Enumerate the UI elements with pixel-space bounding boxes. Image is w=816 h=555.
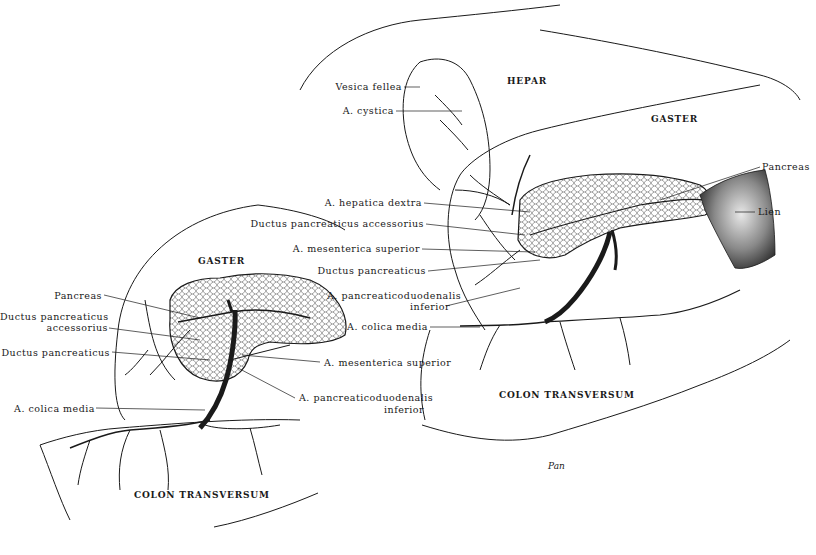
label-lien: Lien xyxy=(758,206,781,217)
label-left-colon-transversum: COLON TRANSVERSUM xyxy=(134,490,270,500)
label-left-pancreaticoduodenalis-2: inferior xyxy=(384,404,424,415)
label-left-ductus-accessorius-1: Ductus pancreaticus xyxy=(0,311,108,322)
artist-signature: Pan xyxy=(548,461,565,471)
label-right-gaster: GASTER xyxy=(651,114,698,124)
label-left-mesenterica-superior: A. mesenterica superior xyxy=(324,357,451,368)
label-right-mesenterica-superior: A. mesenterica superior xyxy=(280,243,420,254)
label-left-ductus-accessorius-2: accessorius xyxy=(0,322,108,333)
label-hepar: HEPAR xyxy=(507,76,547,86)
label-right-colica-media: A. colica media xyxy=(330,321,428,332)
label-right-colon-transversum: COLON TRANSVERSUM xyxy=(499,390,635,400)
label-left-gaster: GASTER xyxy=(198,256,245,266)
label-vesica-fellea: Vesica fellea xyxy=(300,81,402,92)
right-stomach-outline xyxy=(460,85,760,175)
label-left-pancreaticoduodenalis-1: A. pancreaticoduodenalis xyxy=(299,392,433,403)
label-right-pancreaticoduodenalis-1: A. pancreaticoduodenalis xyxy=(327,290,461,301)
label-hepatica-dextra: A. hepatica dextra xyxy=(280,197,422,208)
left-colon-outline xyxy=(40,420,300,445)
label-right-ductus-accessorius: Ductus pancreaticus accessorius xyxy=(240,218,424,229)
label-cystica: A. cystica xyxy=(300,105,394,116)
label-left-colica-media: A. colica media xyxy=(0,403,95,414)
label-left-pancreas: Pancreas xyxy=(20,290,102,301)
label-right-pancreas: Pancreas xyxy=(762,161,810,172)
left-pancreas xyxy=(170,274,346,381)
label-left-ductus-pancreaticus: Ductus pancreaticus xyxy=(0,347,110,358)
gallbladder-outline xyxy=(420,59,490,220)
anatomical-illustration xyxy=(0,0,816,555)
label-right-ductus-pancreaticus: Ductus pancreaticus xyxy=(280,265,426,276)
spleen xyxy=(700,170,775,268)
label-right-pancreaticoduodenalis-2: inferior xyxy=(410,301,450,312)
